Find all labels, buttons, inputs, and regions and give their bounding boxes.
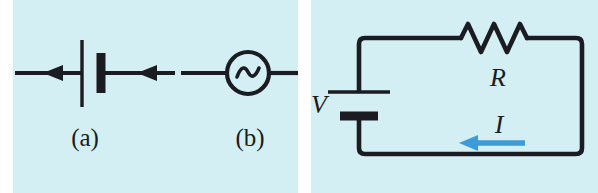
series-circuit-canvas: V R I	[311, 0, 598, 193]
resistor-symbol	[461, 24, 527, 52]
caption-b: (b)	[235, 124, 264, 152]
current-direction-arrow	[459, 135, 525, 151]
series-circuit-panel: V R I	[311, 0, 598, 193]
ac-source-symbol	[181, 52, 298, 94]
voltage-label: V	[311, 90, 330, 119]
battery-left-arrowhead	[43, 65, 63, 81]
battery-right-arrowhead	[137, 65, 157, 81]
circuit-symbols-canvas: (a) (b)	[13, 0, 298, 193]
caption-a: (a)	[71, 124, 99, 152]
sine-wave-icon	[237, 68, 259, 77]
circuit-symbols-panel: (a) (b)	[13, 0, 298, 193]
current-arrow-head	[459, 135, 478, 151]
wire-top-left	[359, 38, 461, 91]
resistance-label: R	[489, 63, 506, 92]
battery-symbol	[328, 92, 390, 116]
current-label: I	[494, 110, 505, 139]
figure-container: (a) (b)	[0, 0, 598, 193]
circuit-loop	[359, 38, 582, 154]
dc-battery-symbol	[15, 40, 175, 107]
wire-right-bottom	[359, 38, 582, 154]
